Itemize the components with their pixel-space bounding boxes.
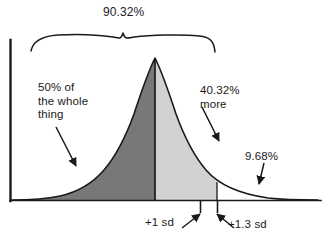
tick-label-1-3sd: +1.3 sd (228, 218, 267, 232)
left-half-label: 50% of the whole thing (38, 81, 88, 122)
normal-distribution-figure: 90.32% 50% of the whole thing 40.32% mor… (0, 0, 335, 238)
upper-tail-label: 9.68% (245, 150, 278, 164)
total-percent-label: 90.32% (103, 6, 144, 20)
right-region-label: 40.32% more (200, 84, 240, 111)
annotation-arrow-right-region (202, 107, 219, 141)
shaded-area-left-half (12, 58, 155, 200)
annotation-arrow-upper-tail (259, 163, 264, 184)
annotation-arrow-left-half (56, 127, 76, 166)
span-brace (31, 33, 215, 52)
tick-label-1sd: +1 sd (145, 216, 174, 230)
annotation-arrow-1sd (182, 214, 200, 228)
